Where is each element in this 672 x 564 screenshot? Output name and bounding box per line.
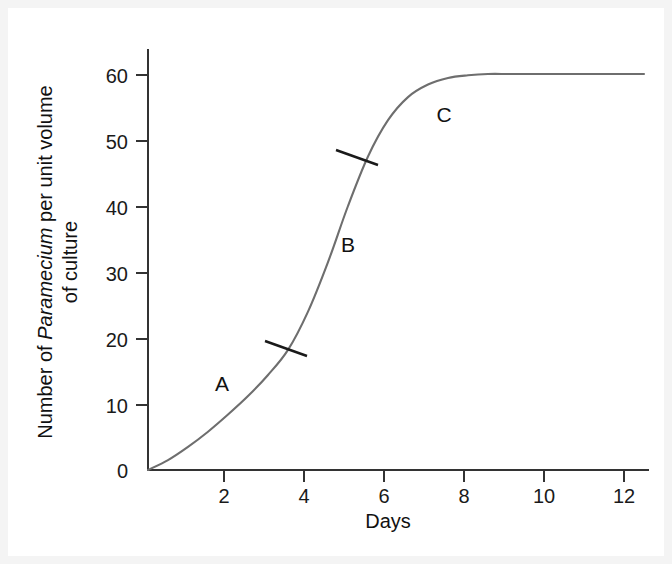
divider-slash-2 [336, 150, 378, 165]
y-axis-title: Number of Paramecium per unit volume of … [34, 85, 81, 439]
y-tick-label-10: 10 [106, 395, 128, 417]
phase-label-a: A [215, 372, 229, 395]
x-tick-label-10: 10 [533, 485, 555, 507]
phase-label-b: B [341, 233, 355, 256]
y-tick-label-0: 0 [117, 460, 128, 482]
figure-root: 60 50 40 30 20 10 0 2 4 6 8 10 12 A B C [0, 0, 672, 564]
y-axis-title-seg1: Number of [34, 340, 56, 439]
x-tick-label-2: 2 [218, 485, 229, 507]
y-tick-label-20: 20 [106, 329, 128, 351]
x-tick-label-12: 12 [613, 485, 635, 507]
y-tick-label-50: 50 [106, 131, 128, 153]
y-axis-ticks [136, 75, 148, 405]
y-axis-title-line1: Number of Paramecium per unit volume [34, 85, 56, 439]
y-tick-label-40: 40 [106, 197, 128, 219]
phase-label-c: C [436, 103, 451, 126]
y-axis-title-seg3: per unit volume [34, 85, 56, 227]
x-axis-title: Days [365, 510, 411, 532]
y-axis-title-line2: of culture [59, 221, 81, 303]
x-tick-label-6: 6 [378, 485, 389, 507]
growth-curve-chart: 60 50 40 30 20 10 0 2 4 6 8 10 12 A B C [0, 0, 672, 564]
y-tick-label-30: 30 [106, 263, 128, 285]
x-axis-ticks [224, 470, 624, 482]
y-tick-label-60: 60 [106, 65, 128, 87]
growth-curve-line [148, 74, 644, 470]
x-tick-label-8: 8 [458, 485, 469, 507]
x-tick-label-4: 4 [298, 485, 309, 507]
y-axis-title-seg2-italic: Paramecium [34, 228, 56, 340]
